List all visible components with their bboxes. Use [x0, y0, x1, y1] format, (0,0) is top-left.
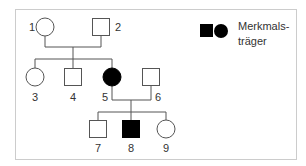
person-3-label: 3: [32, 91, 38, 103]
person-1-female-unaffected: [36, 18, 54, 36]
person-9-female-unaffected: [157, 120, 175, 138]
person-8-male-affected: [123, 121, 140, 138]
person-7-label: 7: [95, 142, 101, 154]
person-1-label: 1: [29, 21, 35, 33]
person-2-label: 2: [115, 21, 121, 33]
person-9-label: 9: [163, 142, 169, 154]
person-8-label: 8: [128, 142, 134, 154]
person-7-male-unaffected: [90, 121, 107, 138]
person-6-male-unaffected: [143, 69, 160, 86]
person-3-female-unaffected: [26, 68, 44, 86]
person-4-label: 4: [70, 91, 76, 103]
legend-text-line2: träger: [238, 35, 267, 47]
legend-filled-square-icon: [200, 24, 213, 37]
person-5-female-affected: [103, 68, 121, 86]
legend-text-line1: Merkmals-: [238, 20, 290, 32]
pedigree-diagram: 1 2 3 4 5 6 7 8 9 Merkmals- träger: [0, 0, 306, 166]
legend-filled-circle-icon: [214, 24, 228, 38]
person-4-male-unaffected: [65, 69, 82, 86]
person-6-label: 6: [155, 91, 161, 103]
person-5-label: 5: [102, 91, 108, 103]
person-2-male-unaffected: [93, 19, 110, 36]
